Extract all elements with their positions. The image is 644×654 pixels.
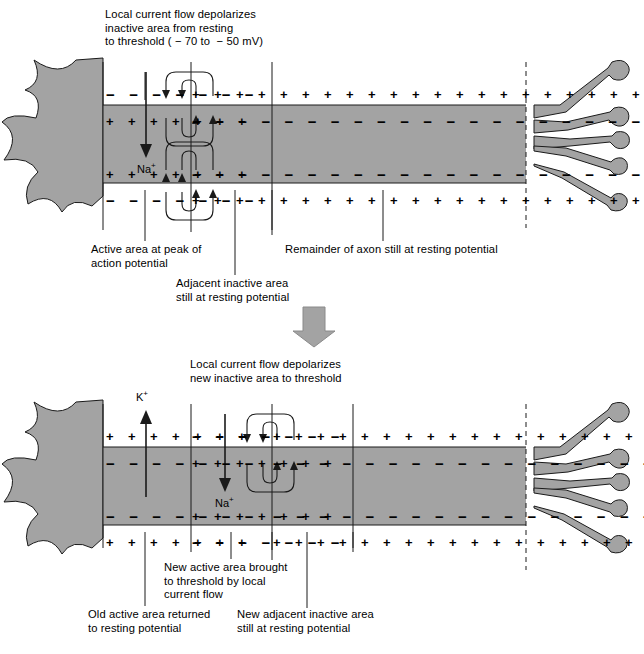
charge-row-inner-bottom-neg: − − − − − − − − − − − − − − − − − − − − …	[192, 170, 644, 180]
charge-row-inner-bottom-neg2: − − − − − − − − − − − − − − − − − − − − …	[273, 512, 644, 522]
sodium-ion-label: Na+	[137, 160, 156, 175]
charge-row-inner-top-neg2: − − − − − − − − − − − − − − − − − − − − …	[273, 459, 644, 469]
stage-one-heading: Local current flow depolarizes inactive …	[105, 8, 263, 49]
remainder-axon-caption: Remainder of axon still at resting poten…	[285, 243, 498, 257]
axon-terminals	[534, 402, 629, 553]
adjacent-inactive-caption: Adjacent inactive area still at resting …	[176, 277, 289, 304]
new-adjacent-inactive-caption: New adjacent inactive area still at rest…	[237, 608, 374, 635]
charge-row-outer-bottom-pos: + + + + + + + + + + + + + + + + + + + + …	[192, 196, 644, 206]
axon-terminals	[534, 60, 629, 211]
cell-body-soma	[2, 58, 103, 212]
stage-transition	[0, 305, 644, 349]
old-active-area-caption: Old active area returned to resting pote…	[88, 608, 210, 635]
stage-two-heading: Local current flow depolarizes new inact…	[190, 358, 342, 385]
potassium-ion-label: K+	[136, 388, 148, 403]
new-active-area-caption: New active area brought to threshold by …	[164, 561, 288, 602]
cell-body-soma	[2, 400, 103, 554]
charge-row-outer-top-pos2: + + + + + + + + + + + + + + + + + + + + …	[273, 432, 644, 442]
sodium-ion-label: Na+	[215, 494, 234, 509]
active-area-caption: Active area at peak of action potential	[91, 243, 201, 270]
charge-row-outer-bottom-pos2: + + + + + + + + + + + + + + + + + + + + …	[273, 538, 644, 548]
potassium-arrowhead	[140, 410, 152, 424]
charge-row-outer-top-pos: + + + + + + + + + + + + + + + + + + + + …	[192, 90, 644, 100]
charge-row-inner-top-neg: − − − − − − − − − − − − − − − − − − − − …	[192, 117, 644, 127]
panel-stage-one: Local current flow depolarizes inactive …	[0, 0, 644, 300]
downward-progression-arrow	[293, 307, 335, 347]
panel-stage-two: Local current flow depolarizes new inact…	[0, 352, 644, 654]
